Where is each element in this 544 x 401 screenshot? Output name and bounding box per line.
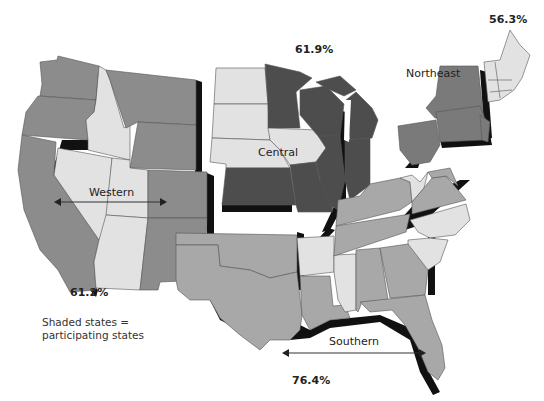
region-label-western: Western xyxy=(89,186,134,199)
state-new-england xyxy=(484,30,530,102)
region-label-central: Central xyxy=(258,146,298,159)
state-arkansas xyxy=(297,236,334,276)
legend: Shaded states = participating states xyxy=(42,316,144,342)
state-washington xyxy=(40,56,99,100)
state-pennsylvania xyxy=(436,106,488,142)
legend-line-2: participating states xyxy=(42,329,144,342)
state-north-dakota xyxy=(214,68,268,104)
state-kansas xyxy=(222,168,296,205)
region-percent-southern: 76.4% xyxy=(292,374,330,387)
state-colorado xyxy=(148,170,207,218)
region-percent-western: 61.2% xyxy=(70,286,108,299)
state-mississippi xyxy=(334,254,356,312)
state-wisconsin xyxy=(300,86,344,136)
state-ohio xyxy=(398,120,440,165)
region-label-northeast: Northeast xyxy=(406,67,460,80)
northeast-region xyxy=(398,30,530,168)
region-percent-northeast: 56.3% xyxy=(489,13,527,26)
region-percent-central: 61.9% xyxy=(295,43,333,56)
region-label-southern: Southern xyxy=(329,335,379,348)
southern-arrow xyxy=(282,349,426,357)
legend-line-1: Shaded states = xyxy=(42,316,144,329)
state-oregon xyxy=(22,96,96,140)
state-wyoming xyxy=(130,122,196,170)
state-south-dakota xyxy=(212,104,270,140)
state-michigan xyxy=(346,92,378,140)
